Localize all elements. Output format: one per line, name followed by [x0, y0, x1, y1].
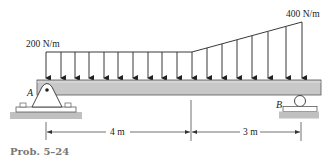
support-b-label: B — [276, 99, 282, 110]
support-b-roller — [279, 96, 319, 119]
dimension-lines — [46, 100, 301, 141]
dimension-3m-label: 3 m — [243, 127, 258, 137]
figure-caption: Prob. 5–24 — [10, 146, 69, 157]
distributed-load — [46, 22, 302, 78]
support-a-label: A — [26, 87, 34, 98]
beam-diagram: 200 N/m 400 N/m A — [0, 0, 332, 162]
dimension-4m-label: 4 m — [110, 127, 125, 137]
right-load-label: 400 N/m — [286, 9, 320, 19]
left-load-label: 200 N/m — [26, 39, 60, 49]
